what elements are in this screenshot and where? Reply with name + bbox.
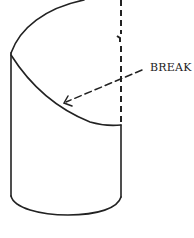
dashed-hidden-line-jog	[117, 36, 120, 42]
break-label: BREAK	[150, 62, 192, 74]
break-arrow-shaft	[66, 70, 142, 102]
cylinder-diagram	[0, 0, 194, 238]
break-curve	[11, 55, 121, 125]
cylinder-top-arc	[11, 0, 84, 53]
cylinder-bottom-arc	[11, 196, 121, 215]
